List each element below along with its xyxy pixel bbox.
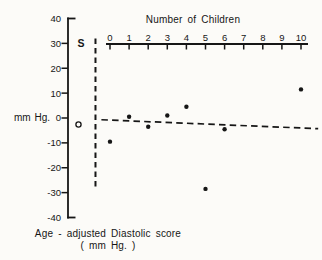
top-axis-tick-label: 8 [260,32,265,43]
data-point [222,127,226,131]
caption-line2: ( mm Hg. ) [12,240,204,252]
caption: Age - adjusted Diastolic score ( mm Hg. … [12,228,204,251]
y-axis-tick-label: 40 [50,13,61,24]
top-axis-tick-label: 1 [126,32,131,43]
top-axis-tick-label: 9 [279,32,284,43]
top-axis-tick-label: 7 [241,32,246,43]
data-point [184,105,188,109]
top-axis-title: Number of Children [95,14,291,25]
top-axis-tick-label: 4 [184,32,189,43]
top-axis-tick-label: 10 [296,32,307,43]
scatter-figure: 403020100-10-20-30-40012345678910 Number… [0,0,322,260]
y-axis-tick-label: 30 [50,38,61,49]
y-axis-unit-label: mm Hg. [0,112,50,123]
data-point [127,115,131,119]
caption-line1: Age - adjusted Diastolic score [12,228,204,240]
y-axis-tick-label: -40 [47,212,61,223]
data-point [165,113,169,117]
top-axis-tick-label: 2 [146,32,151,43]
s-annotation-label: S [73,37,89,49]
y-axis-tick-label: 20 [50,63,61,74]
data-point [203,187,207,191]
data-point [146,125,150,129]
top-axis-tick-label: 3 [165,32,170,43]
open-circle-point [76,122,81,127]
data-point [108,139,112,143]
y-axis-tick-label: 0 [56,112,61,123]
top-axis-tick-label: 0 [107,32,112,43]
y-axis-tick-label: 10 [50,88,61,99]
y-axis-tick-label: -10 [47,137,61,148]
top-axis-tick-label: 5 [203,32,208,43]
plot-canvas: 403020100-10-20-30-40012345678910 [0,0,322,260]
y-axis-tick-label: -20 [47,162,61,173]
data-point [299,87,303,91]
y-axis-tick-label: -30 [47,187,61,198]
trend-line [101,120,318,129]
top-axis-tick-label: 6 [222,32,227,43]
